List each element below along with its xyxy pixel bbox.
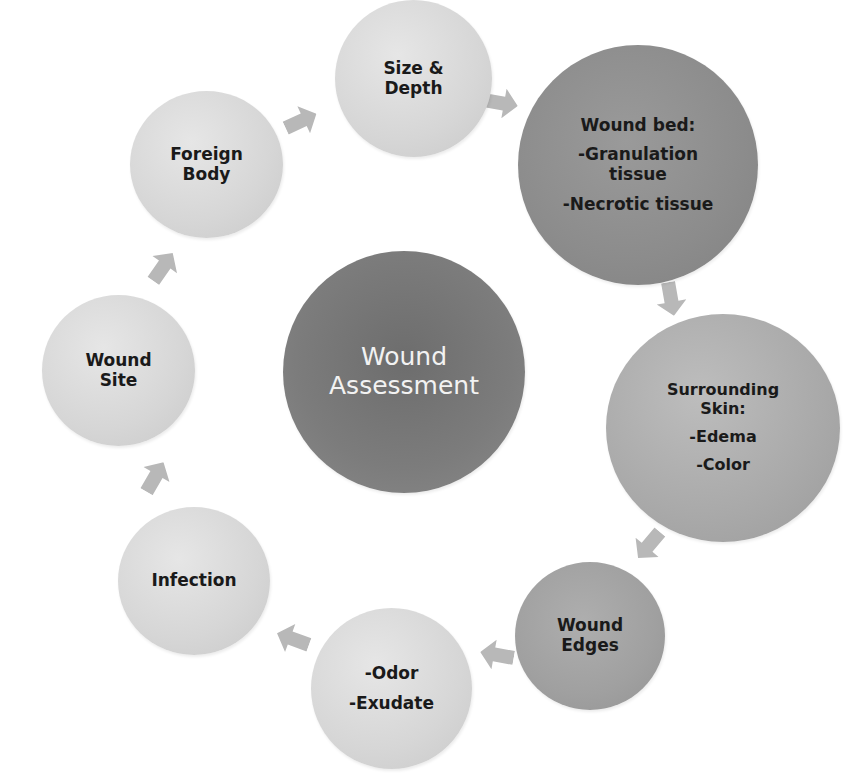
arrow-infection-to-wound-site-icon [134, 455, 177, 499]
node-label-line: Edges [561, 636, 619, 656]
node-wound-site: Wound Site [42, 295, 195, 446]
node-label-line: Site [100, 371, 138, 391]
node-label-line: Infection [151, 571, 236, 591]
node-odor-exudate: -Odor -Exudate [311, 608, 472, 769]
node-label-line: -Color [696, 456, 750, 474]
node-label-line: Wound bed: [581, 116, 696, 136]
node-label-line: -Odor [365, 664, 419, 684]
arrow-wound-bed-to-surrounding-skin-icon [653, 280, 688, 319]
node-label-line: Surrounding [667, 381, 779, 399]
wound-assessment-cycle-diagram: Wound Assessment Size & Depth Wound bed:… [0, 0, 854, 777]
node-label-line: Size & [383, 59, 443, 79]
arrow-wound-edges-to-odor-exudate-icon [478, 637, 517, 672]
center-label-line: Assessment [329, 372, 479, 401]
node-surrounding-skin: Surrounding Skin: -Edema -Color [606, 314, 840, 542]
node-label-line: Foreign [170, 145, 243, 165]
arrow-wound-site-to-foreign-body-icon [141, 244, 185, 289]
node-wound-bed: Wound bed: -Granulation tissue -Necrotic… [518, 45, 758, 285]
center-node-wound-assessment: Wound Assessment [283, 251, 525, 493]
node-label-line: Skin: [700, 400, 745, 418]
node-size-depth: Size & Depth [335, 0, 492, 157]
node-label-line: -Granulation [578, 145, 698, 165]
node-label-line: tissue [609, 165, 667, 185]
node-label-line: -Necrotic tissue [563, 195, 714, 215]
node-infection: Infection [118, 507, 270, 655]
node-foreign-body: Foreign Body [130, 91, 283, 238]
node-label-line: Depth [384, 79, 442, 99]
node-wound-edges: Wound Edges [515, 562, 665, 710]
arrow-surrounding-skin-to-wound-edges-icon [627, 522, 672, 567]
center-label-line: Wound [361, 343, 447, 372]
arrow-foreign-body-to-size-depth-icon [279, 100, 322, 142]
node-label-line: -Edema [689, 428, 756, 446]
node-label-line: Wound [85, 351, 151, 371]
node-label-line: Body [183, 165, 231, 185]
arrow-odor-exudate-to-infection-icon [272, 619, 314, 659]
node-label-line: -Exudate [349, 694, 434, 714]
node-label-line: Wound [557, 616, 623, 636]
